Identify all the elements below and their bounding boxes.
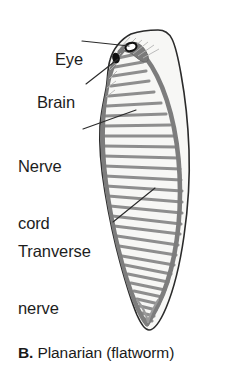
label-eye-text: Eye xyxy=(55,50,83,68)
label-nerve-cord-line1: Nerve xyxy=(18,157,62,176)
caption-letter: B. xyxy=(18,344,38,361)
caption-text: Planarian (flatworm) xyxy=(38,344,175,361)
label-transverse-nerve: Tranverse nerve xyxy=(18,204,91,356)
label-transverse-nerve-line1: Tranverse xyxy=(18,242,91,261)
label-brain-text: Brain xyxy=(37,93,75,111)
planarian-figure: Eye Brain Nerve cord Tranverse nerve B. … xyxy=(0,0,230,371)
label-transverse-nerve-line2: nerve xyxy=(18,299,91,318)
figure-caption: B. Planarian (flatworm) xyxy=(18,343,174,362)
